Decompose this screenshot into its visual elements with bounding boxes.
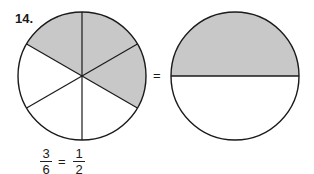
denominator: 6 bbox=[40, 163, 52, 174]
left-circle-sixths bbox=[18, 12, 146, 140]
denominator: 2 bbox=[73, 163, 85, 174]
numerator: 3 bbox=[40, 147, 52, 160]
equation-equals: = bbox=[58, 154, 66, 169]
numerator: 1 bbox=[73, 147, 85, 160]
right-circle-halves bbox=[171, 12, 299, 140]
fraction-three-sixths: 3 6 bbox=[40, 147, 52, 174]
equals-sign: = bbox=[153, 68, 161, 83]
fraction-one-half: 1 2 bbox=[73, 147, 85, 174]
